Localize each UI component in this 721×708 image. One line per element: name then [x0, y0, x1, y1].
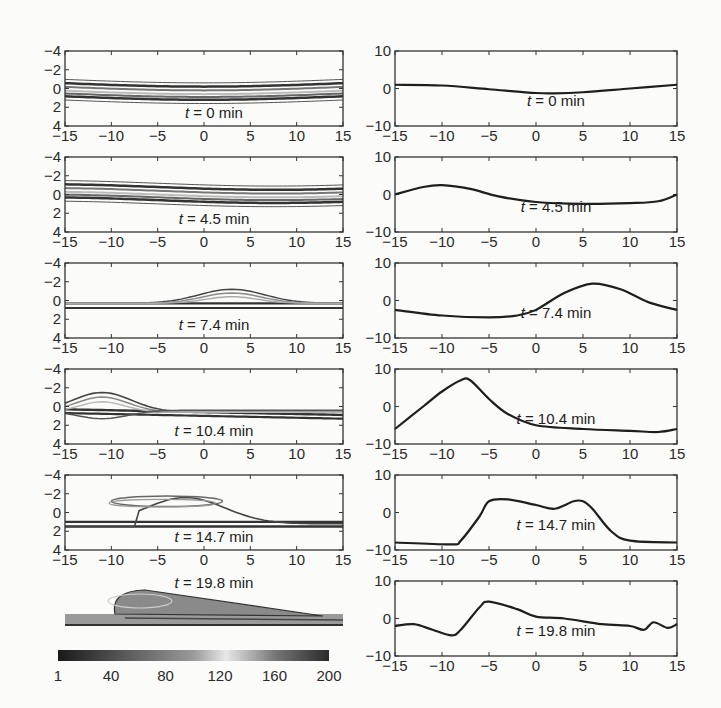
colorbar-tick-label: 160 [262, 667, 287, 684]
y-tick-label: 0 [383, 292, 391, 309]
x-tick-label: −5 [480, 551, 497, 568]
y-tick-label: −10 [366, 647, 391, 664]
colorbar-tick-label: 200 [316, 667, 341, 684]
contour-column: −15−10−5051015−4−2024t = 0 min−15−10−505… [44, 42, 351, 626]
contour-panel: −15−10−5051015−4−2024t = 0 min [44, 42, 351, 144]
y-tick-label: −4 [44, 148, 61, 165]
x-tick-label: 10 [622, 657, 639, 674]
x-tick-label: 5 [579, 445, 587, 462]
y-tick-label: −4 [44, 466, 61, 483]
x-tick-label: 15 [669, 551, 686, 568]
time-label: t = 7.4 min [521, 304, 591, 321]
y-tick-label: 0 [383, 504, 391, 521]
x-tick-label: 15 [335, 445, 352, 462]
x-tick-label: 5 [579, 233, 587, 250]
y-tick-label: −2 [44, 167, 61, 184]
contour-panel: −15−10−5051015−4−2024t = 7.4 min [44, 254, 351, 356]
y-tick-label: 0 [53, 186, 61, 203]
y-tick-label: 0 [53, 80, 61, 97]
y-tick-label: 0 [53, 292, 61, 309]
y-tick-label: −10 [366, 435, 391, 452]
x-tick-label: −10 [99, 127, 124, 144]
contour-panel: t = 19.8 min [65, 574, 343, 626]
x-tick-label: 10 [288, 339, 305, 356]
y-tick-label: −4 [44, 254, 61, 271]
line-panel: −15−10−5051015100−10t = 7.4 min [366, 254, 686, 356]
x-tick-label: 5 [246, 127, 254, 144]
y-tick-label: 2 [53, 310, 61, 327]
x-tick-label: −10 [429, 551, 454, 568]
y-tick-label: 2 [53, 416, 61, 433]
colorbar-tick-label: 1 [54, 667, 62, 684]
x-tick-label: 10 [622, 233, 639, 250]
x-tick-label: −10 [429, 657, 454, 674]
y-tick-label: −10 [366, 117, 391, 134]
time-label: t = 4.5 min [179, 210, 249, 227]
colorbar-tick-label: 80 [157, 667, 174, 684]
time-label: t = 10.4 min [517, 410, 596, 427]
plot-frame [395, 263, 677, 338]
line-panel: −15−10−5051015100−10t = 0 min [366, 42, 686, 144]
contour-panel: −15−10−5051015−4−2024t = 10.4 min [44, 360, 351, 462]
plot-frame [395, 157, 677, 232]
y-tick-label: −2 [44, 61, 61, 78]
y-tick-label: −4 [44, 42, 61, 59]
time-label: t = 7.4 min [179, 316, 249, 333]
y-tick-label: −10 [366, 541, 391, 558]
contour-panel: −15−10−5051015−4−2024t = 14.7 min [44, 466, 351, 568]
x-tick-label: 0 [532, 551, 540, 568]
x-tick-label: 0 [200, 551, 208, 568]
y-tick-label: 10 [374, 42, 391, 59]
x-tick-label: 15 [669, 445, 686, 462]
x-tick-label: −10 [429, 445, 454, 462]
y-tick-label: 4 [53, 223, 61, 240]
time-label: t = 14.7 min [517, 516, 596, 533]
figure: −15−10−5051015−4−2024t = 0 min−15−10−505… [0, 0, 721, 708]
y-tick-label: −4 [44, 360, 61, 377]
x-tick-label: 10 [288, 233, 305, 250]
x-tick-label: 5 [579, 127, 587, 144]
time-label: t = 19.8 min [517, 622, 596, 639]
y-tick-label: 10 [374, 466, 391, 483]
line-panel: −15−10−5051015100−10t = 4.5 min [366, 148, 686, 250]
x-tick-label: 5 [579, 657, 587, 674]
x-tick-label: −5 [480, 233, 497, 250]
x-tick-label: 0 [532, 233, 540, 250]
y-tick-label: −10 [366, 329, 391, 346]
time-label: t = 19.8 min [175, 574, 254, 591]
x-tick-label: −10 [99, 339, 124, 356]
x-tick-label: 0 [200, 445, 208, 462]
y-tick-label: 0 [53, 504, 61, 521]
x-tick-label: 10 [288, 551, 305, 568]
x-tick-label: 0 [532, 657, 540, 674]
x-tick-label: −10 [429, 233, 454, 250]
x-tick-label: 5 [246, 233, 254, 250]
x-tick-label: −5 [480, 127, 497, 144]
line-panel: −15−10−5051015100−10t = 14.7 min [366, 466, 686, 568]
colorbar-tick-label: 40 [103, 667, 120, 684]
time-label: t = 14.7 min [175, 528, 254, 545]
y-tick-label: 2 [53, 204, 61, 221]
colorbar: 14080120160200 [54, 650, 342, 684]
x-tick-label: 5 [246, 339, 254, 356]
y-tick-label: 2 [53, 522, 61, 539]
line-column: −15−10−5051015100−10t = 0 min−15−10−5051… [366, 42, 686, 674]
x-tick-label: −5 [480, 657, 497, 674]
x-tick-label: 5 [579, 339, 587, 356]
x-tick-label: −10 [99, 445, 124, 462]
y-tick-label: 4 [53, 541, 61, 558]
x-tick-label: −5 [149, 339, 166, 356]
x-tick-label: −10 [99, 551, 124, 568]
y-tick-label: 0 [383, 398, 391, 415]
x-tick-label: −5 [149, 551, 166, 568]
plot-frame [395, 369, 677, 444]
x-tick-label: −10 [99, 233, 124, 250]
x-tick-label: −10 [429, 339, 454, 356]
x-tick-label: −5 [480, 445, 497, 462]
y-tick-label: −2 [44, 273, 61, 290]
y-tick-label: −2 [44, 379, 61, 396]
x-tick-label: 15 [669, 657, 686, 674]
x-tick-label: 5 [246, 551, 254, 568]
y-tick-label: 4 [53, 435, 61, 452]
x-tick-label: 15 [669, 233, 686, 250]
